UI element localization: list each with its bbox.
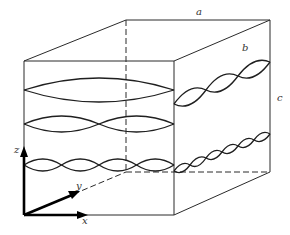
- label-z: z: [13, 144, 20, 155]
- label-x: x: [82, 215, 88, 226]
- side-wave-lower-b: [174, 132, 270, 172]
- wave-mode-1-lower: [24, 90, 174, 102]
- side-wave-upper-a: [174, 60, 270, 104]
- front-face-waves: [24, 78, 174, 171]
- z-arrow-icon: [20, 146, 28, 157]
- wave-mode-2-b: [24, 116, 174, 132]
- label-y: y: [75, 180, 82, 191]
- box: [24, 20, 270, 215]
- label-a: a: [196, 6, 202, 17]
- cavity-diagram: a b c z y x: [0, 0, 290, 235]
- side-face-waves: [174, 60, 270, 172]
- y-axis: [24, 195, 72, 215]
- wave-mode-1-upper: [24, 78, 174, 90]
- top-right-edge: [174, 20, 270, 61]
- top-left-edge: [24, 20, 126, 61]
- label-c: c: [277, 92, 283, 103]
- label-b: b: [242, 42, 248, 53]
- wave-mode-4-b: [24, 159, 174, 171]
- bottom-right-edge: [174, 172, 270, 215]
- side-wave-upper-b: [174, 62, 270, 106]
